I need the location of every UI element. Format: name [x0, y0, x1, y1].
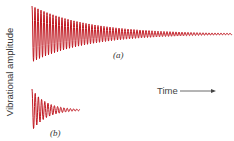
damped-oscillation-figure: Vibrational amplitude (a) (b) Time: [0, 0, 234, 141]
x-axis-label: Time: [157, 85, 178, 96]
panel-b-label: (b): [50, 128, 61, 138]
panel-a-label: (a): [113, 50, 124, 60]
waveform-b: [32, 89, 80, 129]
waveform-plot: [0, 0, 234, 141]
time-arrow-icon: [180, 89, 216, 93]
y-axis-label: Vibrational amplitude: [4, 12, 15, 132]
waveform-a: [32, 6, 232, 61]
